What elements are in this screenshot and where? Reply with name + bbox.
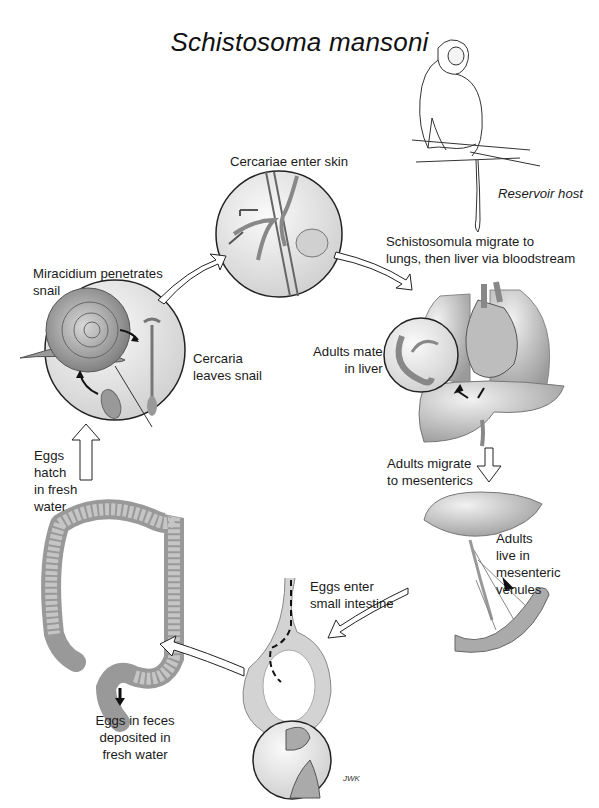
arrow-snail-to-skin <box>158 254 226 304</box>
label-eggs-hatch: Eggs hatch in fresh water <box>34 447 77 515</box>
label-eggs-in-feces: Eggs in feces deposited in fresh water <box>80 712 190 763</box>
life-cycle-illustration <box>0 0 599 808</box>
diagram-title: Schistosoma mansoni <box>0 27 599 58</box>
label-eggs-enter-intestine: Eggs enter small intestine <box>310 578 394 612</box>
adults-mate-circle-illustration <box>384 318 458 392</box>
label-adults-migrate: Adults migrate to mesenterics <box>387 455 473 489</box>
arrow-liver-to-mesenteric <box>477 448 501 482</box>
monkey-illustration <box>412 40 540 232</box>
skin-circle-illustration <box>216 171 342 297</box>
label-adults-live: Adults live in mesenteric venules <box>496 530 561 598</box>
label-miracidium-penetrates: Miracidium penetrates snail <box>33 265 163 299</box>
label-adults-mate: Adults mate in liver <box>313 343 383 377</box>
label-cercariae-enter-skin: Cercariae enter skin <box>230 153 348 170</box>
colon-illustration <box>51 509 174 722</box>
label-schistosomula-migrate: Schistosomula migrate to lungs, then liv… <box>386 233 575 267</box>
label-reservoir-host: Reservoir host <box>498 185 583 202</box>
label-cercaria-leaves-snail: Cercaria leaves snail <box>193 350 262 384</box>
artist-signature: JWK <box>343 774 360 783</box>
